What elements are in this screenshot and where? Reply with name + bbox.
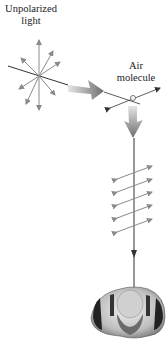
polarization-diagram bbox=[0, 0, 168, 340]
observer-head bbox=[91, 287, 165, 338]
molecule-dot bbox=[130, 95, 135, 100]
unpolarized-light-star bbox=[8, 40, 68, 110]
big-arrow-right-icon bbox=[68, 80, 104, 100]
big-arrow-down-icon bbox=[124, 106, 143, 138]
air-molecule bbox=[104, 88, 160, 108]
ray-arrowhead-icon bbox=[131, 250, 137, 258]
